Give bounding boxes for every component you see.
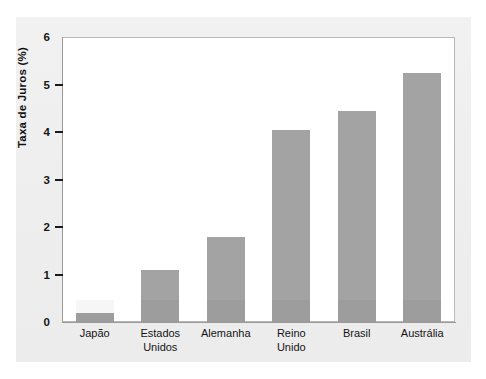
plot-frame xyxy=(62,37,455,322)
y-tick-2: 2 xyxy=(55,226,63,228)
x-label-brasil: Brasil xyxy=(324,327,390,341)
x-label-line: Estados xyxy=(128,327,194,341)
x-label-alemanha: Alemanha xyxy=(193,327,259,341)
x-label-line: Reino xyxy=(259,327,325,341)
bar-shading xyxy=(403,300,441,322)
bar-shading xyxy=(207,300,245,322)
y-tick-label: 1 xyxy=(44,269,50,281)
x-label-estados-unidos: EstadosUnidos xyxy=(128,327,194,354)
bar-brasil xyxy=(338,111,376,322)
bar-alemanha xyxy=(207,237,245,323)
y-tick-label: 3 xyxy=(44,174,50,186)
y-tick-label: 6 xyxy=(44,31,50,43)
y-tick-label: 4 xyxy=(44,126,50,138)
x-label-line: Brasil xyxy=(324,327,390,341)
bar-shading xyxy=(141,300,179,322)
y-tick-mark xyxy=(55,226,63,228)
y-tick-3: 3 xyxy=(55,179,63,181)
y-tick-mark xyxy=(55,131,63,133)
bar-austrália xyxy=(403,73,441,322)
x-label-austrália: Austrália xyxy=(390,327,456,341)
y-axis-title: Taxa de Juros (%) xyxy=(16,47,28,148)
x-label-reino-unido: ReinoUnido xyxy=(259,327,325,354)
bar-shading xyxy=(272,300,310,322)
chart-figure: Taxa de Juros (%) 0123456 JapãoEstadosUn… xyxy=(0,0,486,379)
x-label-line: Alemanha xyxy=(193,327,259,341)
y-tick-label: 0 xyxy=(44,316,50,328)
bar-japão xyxy=(76,313,114,323)
bar-estados-unidos xyxy=(141,270,179,322)
x-label-line: Unidos xyxy=(128,341,194,355)
x-label-line: Austrália xyxy=(390,327,456,341)
y-tick-1: 1 xyxy=(55,274,63,276)
x-axis-spine xyxy=(62,322,456,323)
y-tick-label: 2 xyxy=(44,221,50,233)
y-tick-6: 6 xyxy=(55,36,63,38)
y-tick-mark xyxy=(55,274,63,276)
y-tick-4: 4 xyxy=(55,131,63,133)
bar-shading xyxy=(338,300,376,322)
x-label-line: Unido xyxy=(259,341,325,355)
y-tick-mark xyxy=(55,84,63,86)
y-tick-label: 5 xyxy=(44,79,50,91)
y-tick-5: 5 xyxy=(55,84,63,86)
x-label-line: Japão xyxy=(62,327,128,341)
y-tick-mark xyxy=(55,179,63,181)
y-tick-0: 0 xyxy=(55,321,63,323)
bar-reino-unido xyxy=(272,130,310,322)
bar-shading xyxy=(76,300,114,322)
x-label-japão: Japão xyxy=(62,327,128,341)
